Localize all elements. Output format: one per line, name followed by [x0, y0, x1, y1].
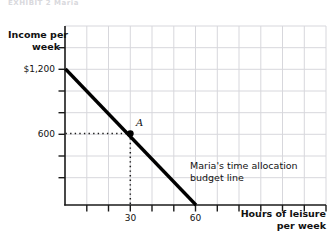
chart-figure: EXHIBIT 2 Maria: [0, 0, 329, 245]
x-tick-label-30: 30: [114, 213, 147, 223]
y-axis-title: Income per week: [8, 29, 60, 52]
x-axis-title: Hours of leisure per week: [216, 208, 326, 231]
point-a-marker: [127, 130, 134, 137]
y-axis-ticks: [59, 48, 66, 178]
x-axis-title-line2: per week: [277, 220, 326, 231]
budget-line-annotation: Maria's time allocation budget line: [190, 160, 322, 184]
y-tick-label-600: 600: [0, 129, 55, 139]
point-a-label: A: [136, 117, 143, 128]
annotation-line2: budget line: [190, 172, 244, 183]
y-axis-title-line2: week: [32, 41, 60, 52]
y-tick-label-1200: $1,200: [0, 64, 55, 74]
x-tick-label-60: 60: [179, 213, 212, 223]
annotation-line1: Maria's time allocation: [190, 160, 298, 171]
x-axis-title-line1: Hours of leisure: [241, 208, 326, 219]
y-axis-title-line1: Income per: [8, 29, 68, 40]
